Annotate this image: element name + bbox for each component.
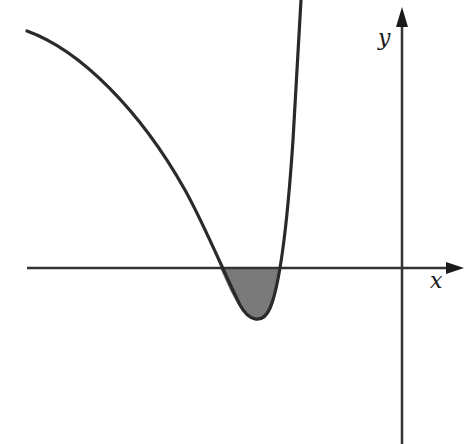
x-axis-label: x <box>430 268 443 293</box>
x-axis-arrow-icon <box>446 262 464 274</box>
function-graph: y x <box>0 0 474 444</box>
y-axis-arrow-icon <box>396 7 408 27</box>
y-axis-label: y <box>377 25 391 50</box>
shaded-area-region <box>220 268 280 320</box>
